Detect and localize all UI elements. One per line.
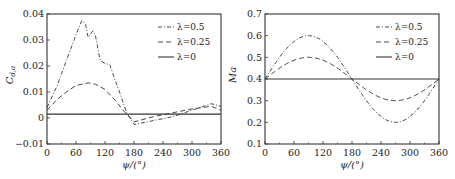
x-axis-label: ψ/(°) [122, 159, 146, 170]
x-axis-label: ψ/(°) [340, 159, 364, 170]
x-tick-label: 360 [430, 147, 448, 158]
y-tick-label: 0.4 [247, 73, 262, 84]
legend-entry: λ=0.25 [177, 37, 211, 47]
y-axis-label: Ma [227, 67, 238, 84]
series-line [47, 83, 221, 122]
y-tick-label: 0.1 [247, 138, 262, 149]
x-tick-label: 180 [125, 147, 143, 158]
y-tick-label: 0.6 [247, 30, 262, 41]
y-tick-label: 0.7 [247, 8, 262, 19]
y-axis-label: Cd,a [4, 66, 17, 85]
chart-drag-coefficient: 060120180240300360−0.0100.010.020.030.04… [4, 8, 230, 170]
legend-entry: λ=0 [395, 52, 414, 62]
x-tick-label: 240 [372, 147, 390, 158]
x-tick-label: 60 [70, 147, 82, 158]
x-tick-label: 60 [288, 147, 300, 158]
y-tick-label: 0.01 [23, 86, 44, 97]
y-tick-label: −0.01 [15, 138, 44, 149]
x-tick-label: 120 [314, 147, 332, 158]
y-tick-label: 0.02 [23, 60, 44, 71]
legend-entry: λ=0.5 [177, 22, 205, 32]
x-tick-label: 300 [401, 147, 419, 158]
y-tick-label: 0.5 [247, 52, 262, 63]
figure: 060120180240300360−0.0100.010.020.030.04… [0, 0, 455, 179]
y-tick-label: 0.03 [23, 34, 44, 45]
chart-mach-number: 0601201802403003600.10.20.30.40.50.60.7ψ… [227, 8, 448, 170]
x-tick-label: 0 [44, 147, 50, 158]
x-tick-label: 0 [262, 147, 268, 158]
y-tick-label: 0.3 [247, 95, 262, 106]
legend-entry: λ=0.5 [395, 22, 423, 32]
x-tick-label: 240 [154, 147, 172, 158]
x-tick-label: 120 [96, 147, 114, 158]
y-tick-label: 0.2 [247, 117, 262, 128]
legend-entry: λ=0 [177, 52, 196, 62]
x-tick-label: 360 [212, 147, 230, 158]
y-tick-label: 0 [38, 112, 44, 123]
x-tick-label: 180 [343, 147, 361, 158]
x-tick-label: 300 [183, 147, 201, 158]
legend-entry: λ=0.25 [395, 37, 429, 47]
y-tick-label: 0.04 [23, 8, 44, 19]
